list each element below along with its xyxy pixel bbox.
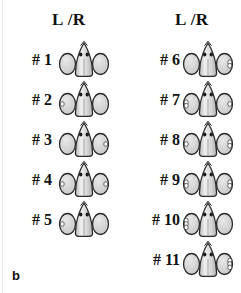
specimen-diagram [182,80,234,124]
specimen-row: # 6 [120,40,241,80]
specimen-diagram [58,160,110,204]
specimen-label: # 8 [126,131,184,149]
column-header-left: L /R [52,10,86,30]
specimen-row: # 8 [120,120,241,160]
specimen-column-left: L /R # 1# 2# 3# 4# 5 [0,0,120,293]
specimen-row: # 2 [0,80,120,120]
specimen-label: # 7 [126,91,184,109]
specimen-label: # 4 [0,171,56,189]
specimen-column-right: L /R # 6# 7# 8# 9# 10# 11 [120,0,241,293]
specimen-diagram [182,120,234,164]
specimen-diagram [58,40,110,84]
specimen-label: # 9 [126,171,184,189]
specimen-diagram [58,80,110,124]
specimen-row: # 1 [0,40,120,80]
column-header-right: L /R [175,10,209,30]
specimen-diagram [58,120,110,164]
specimen-row: # 9 [120,160,241,200]
specimen-label: # 6 [126,51,184,69]
specimen-diagram [182,200,234,244]
specimen-row: # 7 [120,80,241,120]
specimen-label: # 5 [0,211,56,229]
specimen-diagram [58,200,110,244]
specimen-row: # 4 [0,160,120,200]
specimen-row: # 11 [120,240,241,280]
figure-panel-b: L /R # 1# 2# 3# 4# 5 L /R # 6# 7# 8# 9# … [0,0,241,293]
specimen-label: # 1 [0,51,56,69]
specimen-diagram [182,160,234,204]
specimen-label: # 3 [0,131,56,149]
specimen-label: # 2 [0,91,56,109]
specimen-row: # 5 [0,200,120,240]
specimen-diagram [182,40,234,84]
specimen-label: # 10 [126,211,184,229]
specimen-row: # 3 [0,120,120,160]
specimen-diagram [182,240,234,284]
panel-label: b [12,268,20,283]
specimen-row: # 10 [120,200,241,240]
specimen-label: # 11 [126,251,184,269]
